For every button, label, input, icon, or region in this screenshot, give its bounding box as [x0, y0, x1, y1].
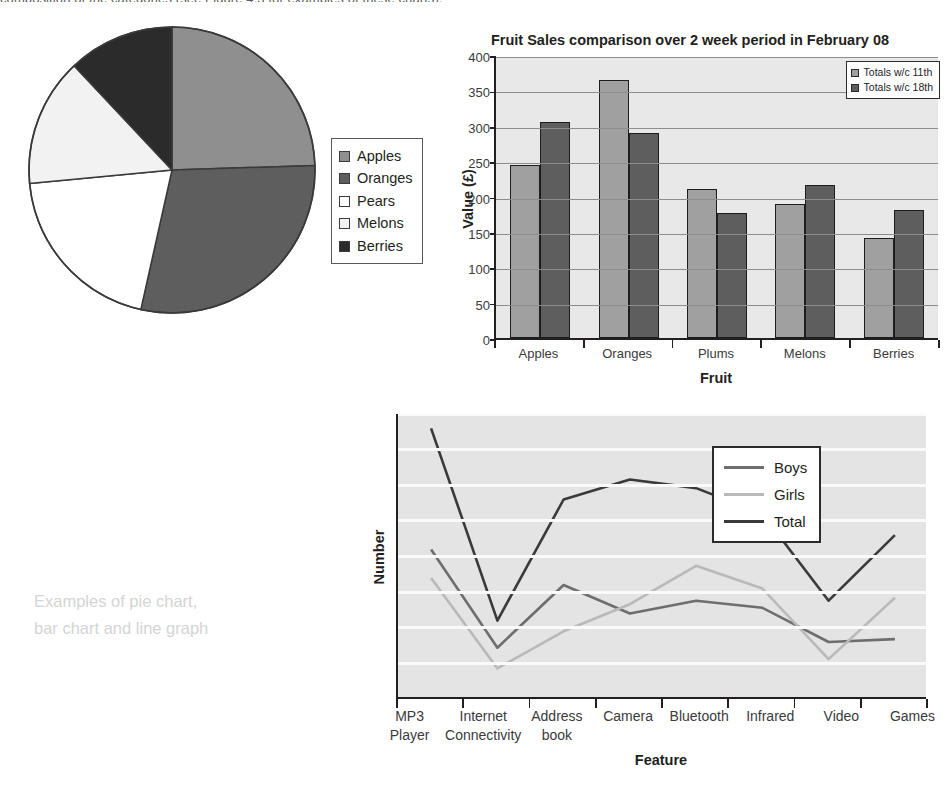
line-chart-x-tick-labels: MP3 PlayerInternetConnectivityAddressboo…	[374, 707, 948, 745]
bar-oranges-series1	[599, 80, 629, 338]
x-tick-label: Oranges	[583, 346, 672, 361]
y-tick	[490, 233, 496, 235]
legend-label: Totals w/c 11th	[864, 65, 933, 80]
y-tick	[490, 304, 496, 306]
y-tick	[396, 591, 398, 593]
legend-label: Totals w/c 18th	[864, 80, 933, 95]
x-tick-label: Addressbook	[521, 707, 592, 745]
gridline	[398, 591, 926, 594]
gridline	[496, 57, 938, 58]
gridline	[398, 555, 926, 558]
x-tick-label-line1: Address	[521, 707, 592, 726]
legend-label: Berries	[357, 235, 403, 257]
series2-color-swatch-icon	[851, 84, 859, 92]
y-tick-label: 250	[468, 156, 490, 171]
x-tick-label-line1: Games	[877, 707, 948, 726]
bar-berries-series1	[864, 238, 894, 339]
x-tick-label: Plums	[672, 346, 761, 361]
y-tick-label: 50	[476, 297, 490, 312]
legend-label: Boys	[774, 454, 807, 481]
bar-plums-series2	[717, 213, 747, 338]
legend-label: Pears	[357, 190, 395, 212]
x-tick-label-line2: book	[521, 726, 592, 745]
legend-label: Total	[774, 508, 806, 535]
figure-canvas: composition of the categories (see Figur…	[0, 0, 948, 789]
x-tick-label-line2: Connectivity	[445, 726, 521, 745]
bar-plums-series1	[687, 189, 717, 338]
y-tick	[396, 663, 398, 665]
bar-apples-series1	[510, 165, 540, 338]
bar-chart: Fruit Sales comparison over 2 week perio…	[436, 32, 944, 382]
y-tick	[396, 556, 398, 558]
x-tick-label-line1: Internet	[445, 707, 521, 726]
gridline	[496, 269, 938, 270]
bar-group	[496, 57, 584, 338]
legend-item-berries: Berries	[339, 235, 413, 257]
y-tick	[396, 520, 398, 522]
boys-line-swatch-icon	[724, 466, 764, 469]
bar-chart-legend: Totals w/c 11th Totals w/c 18th	[846, 61, 940, 99]
gridline	[398, 448, 926, 451]
line-chart-legend: Boys Girls Total	[712, 446, 821, 543]
gridline	[496, 163, 938, 164]
y-tick	[490, 198, 496, 200]
y-tick-label: 100	[468, 262, 490, 277]
legend-item-apples: Apples	[339, 145, 413, 167]
total-line-swatch-icon	[724, 520, 764, 523]
y-tick	[396, 414, 398, 415]
x-tick-label-line1: MP3 Player	[374, 707, 445, 745]
x-tick-label-line1: Infrared	[735, 707, 806, 726]
bar-group	[761, 57, 849, 338]
legend-label: Apples	[357, 145, 401, 167]
y-tick-label: 150	[468, 226, 490, 241]
caption-line-2: bar chart and line graph	[34, 615, 314, 642]
pie-chart-svg	[22, 20, 322, 320]
figure-caption: Examples of pie chart, bar chart and lin…	[34, 588, 314, 642]
oranges-color-swatch-icon	[339, 173, 350, 184]
caption-line-1: Examples of pie chart,	[34, 588, 314, 615]
x-tick-label: Camera	[592, 707, 663, 745]
melons-color-swatch-icon	[339, 218, 350, 229]
bar-melons-series2	[805, 185, 835, 338]
bar-melons-series1	[775, 204, 805, 338]
line-chart-plot-area: 0510152025303540	[396, 414, 926, 699]
x-tick-label-line1: Video	[806, 707, 877, 726]
legend-item-totals-wc-11th: Totals w/c 11th	[851, 65, 933, 80]
x-tick	[938, 340, 940, 348]
x-tick-label: Video	[806, 707, 877, 745]
bar-chart-x-tick-labels: ApplesOrangesPlumsMelonsBerries	[494, 346, 938, 361]
y-tick-label: 400	[468, 50, 490, 65]
berries-color-swatch-icon	[339, 241, 350, 252]
legend-label: Melons	[357, 212, 404, 234]
y-tick	[396, 449, 398, 451]
gridline	[398, 626, 926, 629]
bar-berries-series2	[894, 210, 924, 338]
bar-chart-x-axis-title: Fruit	[494, 370, 938, 386]
legend-item-pears: Pears	[339, 190, 413, 212]
legend-item-total: Total	[724, 508, 807, 535]
legend-label: Oranges	[357, 167, 413, 189]
bar-chart-plot-area: 050100150200250300350400	[494, 57, 938, 340]
cut-off-text-line: composition of the categories (see Figur…	[0, 0, 948, 2]
x-tick-label: Apples	[494, 346, 583, 361]
apples-color-swatch-icon	[339, 151, 350, 162]
y-tick	[490, 162, 496, 164]
girls-line-swatch-icon	[724, 493, 764, 496]
y-tick	[490, 92, 496, 94]
gridline	[496, 128, 938, 129]
gridline	[496, 234, 938, 235]
y-tick-label: 350	[468, 85, 490, 100]
x-tick-label: Berries	[849, 346, 938, 361]
series1-color-swatch-icon	[851, 69, 859, 77]
line-chart-x-axis-title: Feature	[396, 752, 926, 768]
x-tick-label: Games	[877, 707, 948, 745]
pie-chart-legend: Apples Oranges Pears Melons Berries	[331, 138, 423, 264]
y-tick	[396, 627, 398, 629]
y-tick-label: 200	[468, 191, 490, 206]
pears-color-swatch-icon	[339, 196, 350, 207]
legend-item-melons: Melons	[339, 212, 413, 234]
y-tick	[490, 56, 496, 58]
gridline	[496, 305, 938, 306]
gridline	[398, 484, 926, 487]
gridline	[398, 519, 926, 522]
